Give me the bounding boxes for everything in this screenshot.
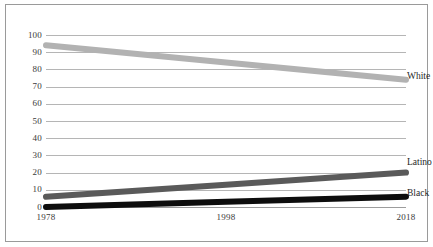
y-tick-label: 70 <box>10 82 42 91</box>
x-tick-label: 1998 <box>217 213 236 222</box>
series-line-white <box>46 45 406 79</box>
series-line-black <box>46 197 406 207</box>
y-tick-label: 100 <box>10 31 42 40</box>
y-axis-labels: 1009080706050403020100 <box>6 35 42 207</box>
series-label-white: White <box>407 72 430 82</box>
y-tick-label: 60 <box>10 99 42 108</box>
y-tick-label: 10 <box>10 185 42 194</box>
series-label-latino: Latino <box>407 158 432 168</box>
series-lines <box>46 35 406 207</box>
y-tick-label: 50 <box>10 117 42 126</box>
chart-frame: 1009080706050403020100 197819982018 Whit… <box>5 4 428 242</box>
series-label-black: Black <box>407 189 429 199</box>
chart-screenshot: 1009080706050403020100 197819982018 Whit… <box>0 0 433 247</box>
series-line-latino <box>46 173 406 197</box>
x-tick-label: 2018 <box>397 213 416 222</box>
plot-area <box>46 35 406 207</box>
y-tick-label: 30 <box>10 151 42 160</box>
x-axis-labels: 197819982018 <box>46 213 406 227</box>
y-tick-label: 90 <box>10 48 42 57</box>
y-tick-label: 40 <box>10 134 42 143</box>
y-tick-label: 0 <box>10 203 42 212</box>
x-tick-label: 1978 <box>37 213 56 222</box>
y-tick-label: 80 <box>10 65 42 74</box>
y-tick-label: 20 <box>10 168 42 177</box>
